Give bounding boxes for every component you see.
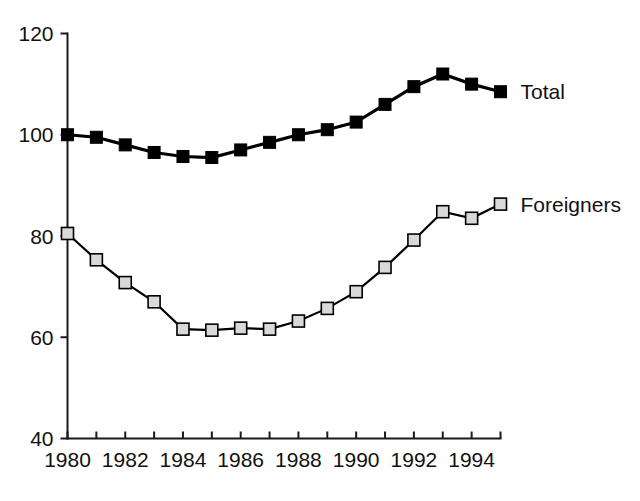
- x-axis-tick-label: 1980: [44, 448, 91, 471]
- x-axis-tick-label: 1982: [102, 448, 149, 471]
- data-point-foreigners-1984[interactable]: [177, 323, 189, 335]
- data-point-foreigners-1988[interactable]: [292, 315, 304, 327]
- data-point-foreigners-1989[interactable]: [321, 302, 333, 314]
- y-axis-tick-label: 80: [30, 225, 53, 248]
- x-axis-tick-label: 1990: [333, 448, 380, 471]
- x-axis-tick-label: 1988: [275, 448, 322, 471]
- series-line-total: [68, 74, 501, 158]
- data-point-total-1994[interactable]: [466, 78, 478, 90]
- y-axis: 406080100120: [18, 22, 67, 450]
- data-point-foreigners-1987[interactable]: [264, 323, 276, 335]
- y-axis-tick-label: 120: [18, 22, 53, 45]
- data-point-foreigners-1983[interactable]: [148, 296, 160, 308]
- data-point-foreigners-1990[interactable]: [350, 286, 362, 298]
- chart-container: 406080100120 198019821984198619881990199…: [0, 0, 640, 501]
- data-point-total-1981[interactable]: [90, 131, 102, 143]
- data-point-total-1986[interactable]: [235, 144, 247, 156]
- data-point-total-1989[interactable]: [321, 124, 333, 136]
- x-axis-tick-label: 1984: [160, 448, 207, 471]
- data-point-foreigners-1981[interactable]: [90, 254, 102, 266]
- y-axis-tick-label: 100: [18, 123, 53, 146]
- legend-label-foreigners: Foreigners: [521, 193, 621, 216]
- data-point-total-1988[interactable]: [292, 129, 304, 141]
- x-axis-tick-label: 1994: [448, 448, 495, 471]
- data-point-total-1993[interactable]: [437, 68, 449, 80]
- data-point-foreigners-1986[interactable]: [235, 322, 247, 334]
- data-point-foreigners-1994[interactable]: [466, 212, 478, 224]
- data-point-total-1991[interactable]: [379, 98, 391, 110]
- data-point-foreigners-1995[interactable]: [495, 198, 507, 210]
- data-point-foreigners-1980[interactable]: [62, 227, 74, 239]
- data-point-total-1980[interactable]: [62, 129, 74, 141]
- y-axis-tick-label: 60: [30, 326, 53, 349]
- data-point-total-1984[interactable]: [177, 151, 189, 163]
- data-point-foreigners-1985[interactable]: [206, 324, 218, 336]
- data-point-total-1995[interactable]: [495, 86, 507, 98]
- data-point-total-1992[interactable]: [408, 81, 420, 93]
- data-point-total-1985[interactable]: [206, 152, 218, 164]
- x-axis-tick-label: 1986: [217, 448, 264, 471]
- data-point-total-1983[interactable]: [148, 146, 160, 158]
- data-point-foreigners-1992[interactable]: [408, 234, 420, 246]
- data-point-total-1990[interactable]: [350, 116, 362, 128]
- data-point-foreigners-1993[interactable]: [437, 206, 449, 218]
- line-chart: 406080100120 198019821984198619881990199…: [0, 0, 640, 501]
- x-axis: 19801982198419861988199019921994: [44, 432, 500, 471]
- x-axis-tick-label: 1992: [391, 448, 438, 471]
- series-layer: [62, 68, 507, 336]
- series-line-foreigners: [68, 204, 501, 330]
- data-point-foreigners-1991[interactable]: [379, 261, 391, 273]
- data-point-total-1982[interactable]: [119, 139, 131, 151]
- chart-legend: TotalForeigners: [521, 80, 621, 215]
- data-point-total-1987[interactable]: [264, 136, 276, 148]
- legend-label-total: Total: [521, 80, 565, 103]
- data-point-foreigners-1982[interactable]: [119, 277, 131, 289]
